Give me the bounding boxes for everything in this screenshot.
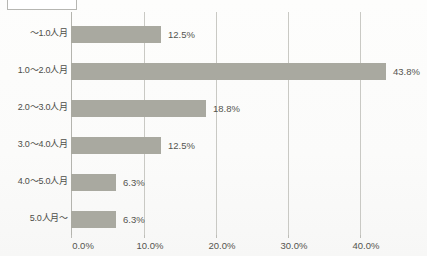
bar-5[interactable] [71,211,116,228]
category-label-3: 3.0～4.0人月 [2,137,68,151]
bar-4[interactable] [71,174,116,191]
bar-value-1: 43.8% [393,64,420,79]
x-tick-label-30: 30.0% [281,239,308,253]
x-tick-label-0: 0.0% [72,239,94,253]
x-tick-mark-40 [360,235,361,238]
bar-1[interactable] [71,63,386,80]
bar-row: 12.5% [71,20,427,50]
value-axis-labels: 0.0% 10.0% 20.0% 30.0% 40.0% [0,237,427,256]
horizontal-bar-chart: ～1.0人月 1.0～2.0人月 2.0～3.0人月 3.0～4.0人月 4.0… [0,0,427,256]
category-label-2: 2.0～3.0人月 [2,100,68,114]
bar-row: 6.3% [71,205,427,235]
bar-value-5: 6.3% [123,212,145,227]
category-axis-labels: ～1.0人月 1.0～2.0人月 2.0～3.0人月 3.0～4.0人月 4.0… [0,12,68,235]
bar-row: 43.8% [71,57,427,87]
x-tick-label-10: 10.0% [137,239,164,253]
bar-row: 6.3% [71,168,427,198]
bar-value-3: 12.5% [168,138,195,153]
category-label-5: 5.0人月～ [2,211,68,225]
x-tick-mark-10 [144,235,145,238]
category-label-1: 1.0～2.0人月 [2,63,68,77]
x-tick-mark-20 [216,235,217,238]
bar-row: 12.5% [71,131,427,161]
bar-value-4: 6.3% [123,175,145,190]
x-tick-label-40: 40.0% [353,239,380,253]
category-label-4: 4.0～5.0人月 [2,174,68,188]
bar-0[interactable] [71,26,161,43]
bar-3[interactable] [71,137,161,154]
bar-value-0: 12.5% [168,27,195,42]
bar-row: 18.8% [71,94,427,124]
x-tick-mark-30 [288,235,289,238]
bar-2[interactable] [71,100,206,117]
plot-area: 12.5% 43.8% 18.8% 12.5% 6.3% 6.3% [71,12,427,235]
x-tick-label-20: 20.0% [209,239,236,253]
x-tick-mark-0 [71,235,72,238]
category-label-0: ～1.0人月 [2,26,68,40]
bar-value-2: 18.8% [213,101,240,116]
